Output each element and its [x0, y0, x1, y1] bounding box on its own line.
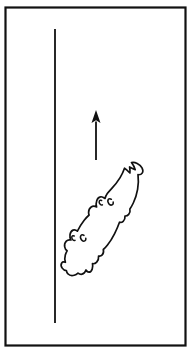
figure-svg [0, 0, 192, 353]
figure-background [0, 0, 192, 353]
figure-canvas [0, 0, 192, 353]
